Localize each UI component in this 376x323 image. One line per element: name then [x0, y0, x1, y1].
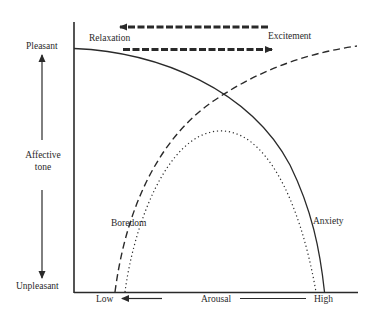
excitement-label: Excitement	[268, 32, 311, 42]
arousal-label: Arousal	[201, 295, 231, 305]
high-label: High	[314, 295, 333, 305]
combined-dotted-curve	[125, 131, 316, 292]
affective-tone-label: Affective tone	[21, 149, 65, 173]
relaxation-label: Relaxation	[89, 34, 130, 44]
affective-tone-line2: tone	[21, 161, 65, 173]
boredom-label: Boredom	[111, 219, 146, 229]
pleasant-label: Pleasant	[26, 42, 58, 52]
low-label: Low	[96, 295, 113, 305]
boredom-excitement-dashed-curve	[115, 46, 357, 292]
affective-tone-line1: Affective	[21, 149, 65, 161]
anxiety-solid-curve	[74, 49, 325, 293]
anxiety-label: Anxiety	[313, 217, 344, 227]
unpleasant-label: Unpleasant	[16, 282, 59, 292]
